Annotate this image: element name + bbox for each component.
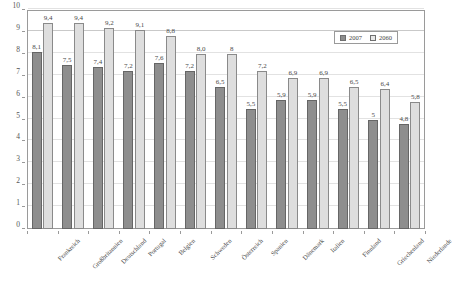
- bar-value-label: 9,4: [40, 14, 56, 22]
- bar-2060[interactable]: [349, 87, 359, 229]
- y-tick-label: 9: [16, 24, 20, 32]
- bar-2060[interactable]: [257, 71, 267, 229]
- x-tick-label: Belgien: [177, 237, 196, 256]
- y-tick-mark: [22, 206, 25, 207]
- bar-group: 7,68,8: [149, 10, 180, 229]
- gridline: [28, 8, 424, 9]
- legend-label: 2007: [349, 34, 362, 41]
- bar-2007[interactable]: [154, 63, 164, 229]
- y-tick-mark: [22, 184, 25, 185]
- bar-2007[interactable]: [368, 120, 378, 230]
- bar-2060[interactable]: [74, 23, 84, 229]
- legend-item-2007[interactable]: 2007: [340, 34, 362, 41]
- x-tick-mark: [303, 231, 304, 234]
- bar-2007[interactable]: [93, 67, 103, 229]
- bar-value-label: 9,2: [101, 19, 117, 27]
- x-tick-label: Finnland: [361, 237, 382, 258]
- x-tick-label: Schweden: [209, 237, 233, 261]
- bar-group: 7,28,0: [180, 10, 211, 229]
- y-axis: 012345678910: [0, 10, 25, 229]
- y-tick-mark: [22, 119, 25, 120]
- x-tick-mark: [88, 231, 89, 234]
- x-tick-mark: [27, 231, 28, 234]
- x-tick-mark: [180, 231, 181, 234]
- bar-group: 4,85,8: [394, 10, 425, 229]
- x-axis: FrankreichGroßbritannienDeutschlandPortu…: [27, 231, 425, 287]
- x-tick-mark: [149, 231, 150, 234]
- y-tick-mark: [22, 53, 25, 54]
- bar-2060[interactable]: [104, 28, 114, 229]
- bar-value-label: 6,9: [316, 69, 332, 77]
- y-tick-label: 0: [16, 221, 20, 229]
- bar-2060[interactable]: [380, 89, 390, 229]
- bar-group: 7,29,1: [119, 10, 150, 229]
- bar-group: 8,19,4: [27, 10, 58, 229]
- bar-group: 5,96,9: [303, 10, 334, 229]
- x-tick-label: Spanien: [269, 237, 289, 257]
- x-tick-label: Niederlande: [425, 237, 452, 264]
- legend-swatch-icon: [370, 35, 376, 41]
- legend-label: 2060: [379, 34, 392, 41]
- x-tick-mark: [272, 231, 273, 234]
- bar-2060[interactable]: [135, 30, 145, 229]
- y-tick-mark: [22, 140, 25, 141]
- bar-2007[interactable]: [62, 65, 72, 229]
- x-tick-label: Portugal: [147, 237, 168, 258]
- bar-2007[interactable]: [246, 109, 256, 229]
- y-tick-mark: [22, 228, 25, 229]
- x-tick-mark: [119, 231, 120, 234]
- bar-2007[interactable]: [32, 52, 42, 229]
- y-tick-label: 5: [16, 112, 20, 120]
- x-tick-mark: [364, 231, 365, 234]
- bar-group: 5,96,9: [272, 10, 303, 229]
- y-tick-mark: [22, 31, 25, 32]
- y-tick-label: 7: [16, 68, 20, 76]
- x-tick-label: Frankreich: [57, 237, 82, 262]
- x-tick-mark: [394, 231, 395, 234]
- bar-2060[interactable]: [319, 78, 329, 229]
- y-tick-label: 4: [16, 133, 20, 141]
- bar-2007[interactable]: [276, 100, 286, 229]
- bar-2007[interactable]: [399, 124, 409, 229]
- y-tick-label: 1: [16, 199, 20, 207]
- x-tick-mark: [425, 231, 426, 234]
- y-tick-mark: [22, 97, 25, 98]
- bar-group: 7,49,2: [88, 10, 119, 229]
- legend-item-2060[interactable]: 2060: [370, 34, 392, 41]
- bar-2060[interactable]: [166, 36, 176, 229]
- bar-2007[interactable]: [123, 71, 133, 229]
- bar-2060[interactable]: [288, 78, 298, 229]
- bar-value-label: 8: [224, 45, 240, 53]
- x-tick-mark: [211, 231, 212, 234]
- y-tick-label: 6: [16, 90, 20, 98]
- x-tick-mark: [241, 231, 242, 234]
- bar-value-label: 9,4: [71, 14, 87, 22]
- bar-2007[interactable]: [307, 100, 317, 229]
- x-tick-mark: [58, 231, 59, 234]
- x-tick-label: Österreich: [240, 237, 264, 261]
- bar-group: 7,59,4: [58, 10, 89, 229]
- chart-legend: 2007 2060: [334, 31, 398, 44]
- y-tick-label: 3: [16, 155, 20, 163]
- bar-2060[interactable]: [410, 102, 420, 229]
- y-tick-label: 2: [16, 177, 20, 185]
- x-tick-label: Großbritannien: [91, 237, 124, 270]
- y-tick-mark: [22, 9, 25, 10]
- bar-value-label: 8,8: [163, 27, 179, 35]
- y-tick-mark: [22, 75, 25, 76]
- y-tick-label: 10: [13, 2, 21, 10]
- x-tick-label: Dänemark: [301, 237, 325, 261]
- bar-2007[interactable]: [338, 109, 348, 229]
- legend-swatch-icon: [340, 35, 346, 41]
- bar-2060[interactable]: [227, 54, 237, 229]
- y-tick-mark: [22, 162, 25, 163]
- y-tick-label: 8: [16, 46, 20, 54]
- bar-2007[interactable]: [185, 71, 195, 229]
- bar-2007[interactable]: [215, 87, 225, 229]
- x-tick-label: Griechenland: [395, 237, 425, 267]
- bar-2060[interactable]: [43, 23, 53, 229]
- bar-2060[interactable]: [196, 54, 206, 229]
- x-tick-label: Italien: [329, 237, 346, 254]
- bar-value-label: 7,2: [254, 62, 270, 70]
